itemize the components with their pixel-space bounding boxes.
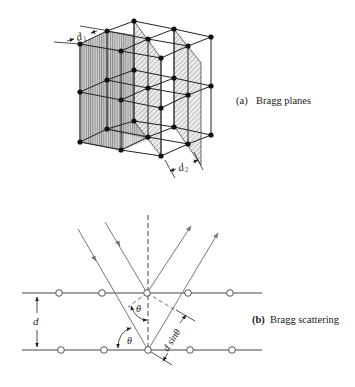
d1-label: d₁ xyxy=(74,29,87,43)
atoms xyxy=(56,290,236,354)
d-sin-theta-label: d sinθ xyxy=(160,327,182,353)
bragg-scattering-diagram: d sinθ d θ θ xyxy=(22,215,262,365)
caption-b-text: Bragg scattering xyxy=(270,314,340,325)
incident-rays xyxy=(78,222,148,350)
caption-a: (a) Bragg planes xyxy=(236,95,311,107)
theta-label-upper: θ xyxy=(136,303,141,314)
d2-label: d₂ xyxy=(177,159,189,173)
caption-b: (b) Bragg scattering xyxy=(252,314,340,326)
caption-a-text: Bragg planes xyxy=(256,95,311,106)
wavefront-right-dashed xyxy=(147,293,175,310)
bragg-figure: d₁ d₂ (a) Bragg planes xyxy=(0,0,355,387)
caption-a-tag: (a) xyxy=(236,95,248,107)
bragg-planes-lattice: d₁ d₂ xyxy=(54,18,214,178)
theta-label-lower: θ xyxy=(127,335,132,346)
scattered-rays xyxy=(147,226,218,350)
caption-b-tag: (b) xyxy=(252,314,265,326)
d-label: d xyxy=(33,315,39,327)
